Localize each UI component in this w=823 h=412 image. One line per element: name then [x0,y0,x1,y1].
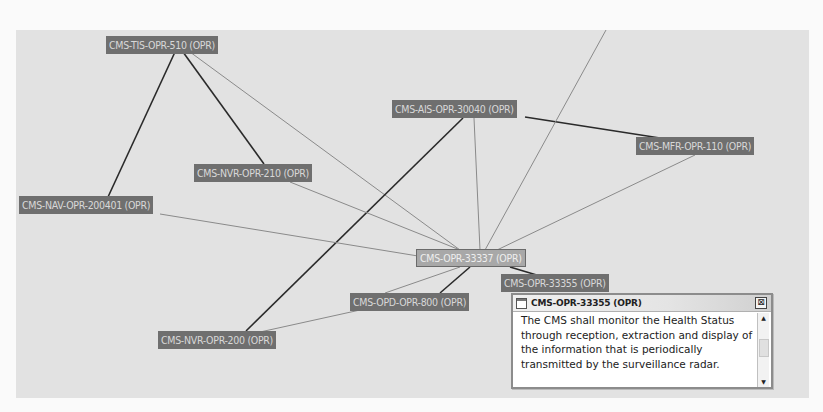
edge-n6-n8b [385,267,460,293]
popup-scrollbar[interactable]: ▲ ▼ [757,313,769,387]
popup-title: CMS-OPR-33355 (OPR) [531,298,642,308]
graph-node[interactable]: CMS-NVR-OPR-210 (OPR) [194,164,312,182]
window-icon [516,298,527,309]
edge-n2-n6 [474,118,480,250]
requirement-popup[interactable]: CMS-OPR-33355 (OPR) ⊠ The CMS shall moni… [511,293,773,389]
scroll-up-icon[interactable]: ▲ [758,313,769,323]
scroll-down-icon[interactable]: ▼ [758,377,769,387]
graph-node[interactable]: CMS-AIS-OPR-30040 (OPR) [392,100,517,118]
graph-node[interactable]: CMS-OPR-33337 (OPR) [416,249,526,267]
graph-node[interactable]: CMS-MFR-OPR-110 (OPR) [636,137,754,155]
edge-n1-n5 [108,52,175,197]
popup-body: The CMS shall monitor the Health Status … [513,312,771,388]
edge-n2-n3 [525,117,660,138]
edge-n5-n6 [160,214,418,256]
edge-external-n6 [485,30,606,250]
edge-n3-n6 [497,155,695,250]
graph-node[interactable]: CMS-OPD-OPR-800 (OPR) [350,293,469,311]
edge-n6-n8 [440,267,470,293]
requirement-text: The CMS shall monitor the Health Status … [513,312,757,388]
close-icon[interactable]: ⊠ [755,297,767,309]
scroll-thumb[interactable] [759,339,769,357]
graph-node[interactable]: CMS-TIS-OPR-510 (OPR) [106,36,218,54]
graph-node[interactable]: CMS-NAV-OPR-200401 (OPR) [19,196,153,214]
graph-node[interactable]: CMS-NVR-OPR-200 (OPR) [158,331,276,349]
edge-n1-n6 [190,52,460,250]
edge-n1-n4 [183,52,264,164]
graph-node[interactable]: CMS-OPR-33355 (OPR) [501,274,609,292]
edge-n8-n9 [260,310,360,332]
popup-titlebar[interactable]: CMS-OPR-33355 (OPR) ⊠ [513,295,771,312]
